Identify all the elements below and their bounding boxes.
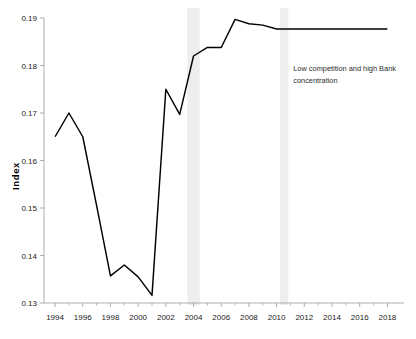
x-tick-label: 1996 xyxy=(74,313,92,322)
y-tick-label: 0.15 xyxy=(21,204,37,213)
x-tick-label: 1998 xyxy=(102,313,120,322)
x-tick-label: 2004 xyxy=(185,313,203,322)
chart-container: 0.130.140.150.160.170.180.19 19941996199… xyxy=(0,0,416,339)
y-tick-label: 0.18 xyxy=(21,62,37,71)
y-tick-label: 0.13 xyxy=(21,299,37,308)
x-tick-label: 2012 xyxy=(295,313,313,322)
x-tick-label: 1994 xyxy=(46,313,64,322)
y-tick-label: 0.17 xyxy=(21,109,37,118)
x-tick-label: 2018 xyxy=(378,313,396,322)
x-tick-label: 2002 xyxy=(157,313,175,322)
y-tick-label: 0.19 xyxy=(21,14,37,23)
shaded-band-1 xyxy=(280,8,288,305)
chart-background xyxy=(0,0,416,339)
x-tick-label: 2000 xyxy=(129,313,147,322)
x-tick-label: 2010 xyxy=(268,313,286,322)
x-tick-label: 2008 xyxy=(240,313,258,322)
line-chart: 0.130.140.150.160.170.180.19 19941996199… xyxy=(0,0,416,339)
low-competition-note-line2: concentration xyxy=(293,76,337,85)
y-axis-title: Index xyxy=(10,162,21,190)
low-competition-note-line1: Low competition and high Bank xyxy=(293,64,396,73)
x-tick-label: 2014 xyxy=(323,313,341,322)
y-tick-label: 0.14 xyxy=(21,252,37,261)
y-tick-label: 0.16 xyxy=(21,157,37,166)
x-tick-label: 2006 xyxy=(212,313,230,322)
x-tick-label: 2016 xyxy=(351,313,369,322)
